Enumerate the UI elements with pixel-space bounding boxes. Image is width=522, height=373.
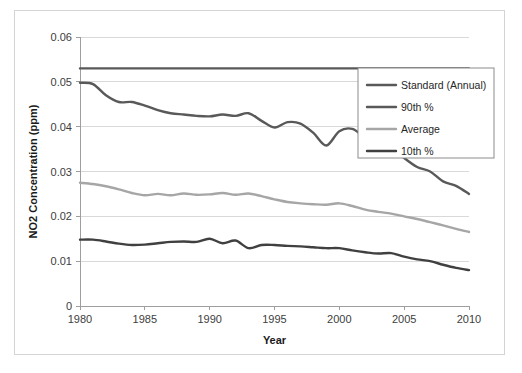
x-axis-tick-label: 2000	[327, 313, 351, 325]
series-line-10th	[80, 239, 469, 270]
x-axis-tick-label: 2010	[457, 313, 481, 325]
x-axis-tick-label: 2005	[392, 313, 416, 325]
y-axis-tick-label: 0.05	[51, 76, 72, 88]
chart-container: 00.010.020.030.040.050.06 19801985199019…	[14, 10, 505, 355]
y-axis-tick-label: 0.06	[51, 31, 72, 43]
legend-label-standard-annual: Standard (Annual)	[401, 79, 486, 91]
y-axis-tick-label: 0.04	[51, 121, 72, 133]
chart-legend: Standard (Annual)90th %Average10th %	[358, 68, 494, 158]
y-axis-tick-label: 0.02	[51, 210, 72, 222]
y-axis-tick-label: 0.01	[51, 255, 72, 267]
x-axis-tick-label: 1980	[68, 313, 92, 325]
legend-label-90th: 90th %	[401, 101, 434, 113]
y-axis-title: NO2 Concentration (ppm)	[27, 104, 39, 238]
x-axis-tick-label: 1985	[133, 313, 157, 325]
legend-label-average: Average	[401, 123, 440, 135]
y-axis-tick-label: 0.03	[51, 166, 72, 178]
legend-label-10th: 10th %	[401, 145, 434, 157]
x-axis-title: Year	[263, 334, 287, 346]
series-line-average	[80, 183, 469, 232]
y-axis-tick-label: 0	[66, 300, 72, 312]
x-axis-tick-labels: 1980198519901995200020052010	[68, 313, 481, 325]
x-axis-tick-label: 1995	[262, 313, 286, 325]
y-axis-tick-labels: 00.010.020.030.040.050.06	[51, 31, 72, 312]
x-axis-tick-label: 1990	[197, 313, 221, 325]
no2-concentration-line-chart: 00.010.020.030.040.050.06 19801985199019…	[15, 11, 504, 354]
